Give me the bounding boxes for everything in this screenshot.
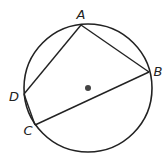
label-d: D <box>9 89 19 104</box>
circle-diagram: A B C D <box>0 0 166 162</box>
label-c: C <box>23 123 33 138</box>
center-point <box>85 85 91 91</box>
segment-cd <box>24 94 35 125</box>
label-a: A <box>76 7 86 22</box>
segment-bc <box>35 72 149 125</box>
diagram-canvas: A B C D <box>0 0 166 162</box>
label-b: B <box>154 64 163 79</box>
